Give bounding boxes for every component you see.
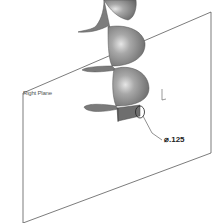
plane-label: Right Plane <box>23 90 52 96</box>
cad-viewport[interactable] <box>0 0 223 223</box>
vertical-arrow-icon <box>162 89 166 100</box>
dimension-leader <box>143 116 162 140</box>
dimension-label[interactable]: ⌀.125 <box>164 135 185 144</box>
helix-part[interactable] <box>78 0 149 122</box>
